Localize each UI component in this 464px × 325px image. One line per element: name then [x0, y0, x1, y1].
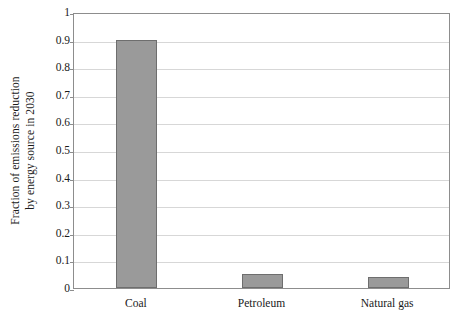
y-axis-tick-label: 0.4: [40, 173, 70, 185]
y-axis-tick-label: 0.9: [40, 35, 70, 47]
y-axis-tick-label: 0.8: [40, 62, 70, 74]
y-axis-title-line-2: by energy source in 2030: [22, 76, 37, 224]
bar-petroleum: [242, 274, 283, 288]
bar-series: [74, 14, 449, 288]
x-axis-tick-label: Natural gas: [361, 296, 414, 310]
y-axis-tick-label: 0.6: [40, 118, 70, 130]
x-axis-tick-label: Coal: [125, 296, 147, 310]
y-axis-tick-label: 0.3: [40, 200, 70, 212]
y-axis-tick-label: 0.5: [40, 145, 70, 157]
y-axis-tick-mark: [70, 290, 74, 291]
bar-coal: [116, 40, 157, 288]
y-axis-tick-labels: 00.10.20.30.40.50.60.70.80.91: [40, 13, 70, 289]
bar-natural-gas: [368, 277, 409, 288]
plot-area: [73, 13, 450, 289]
y-axis-title-line-1: Fraction of emissions reduction: [8, 76, 23, 224]
y-axis-tick-label: 0.7: [40, 90, 70, 102]
y-axis-title: Fraction of emissions reduction by energ…: [0, 0, 44, 300]
y-axis-tick-label: 1: [40, 7, 70, 19]
bar-chart: Fraction of emissions reduction by energ…: [0, 0, 464, 325]
y-axis-tick-label: 0.2: [40, 228, 70, 240]
y-axis-tick-label: 0: [40, 283, 70, 295]
y-axis-tick-label: 0.1: [40, 256, 70, 268]
x-axis-tick-label: Petroleum: [238, 296, 285, 310]
x-axis-tick-labels: CoalPetroleumNatural gas: [73, 296, 450, 320]
